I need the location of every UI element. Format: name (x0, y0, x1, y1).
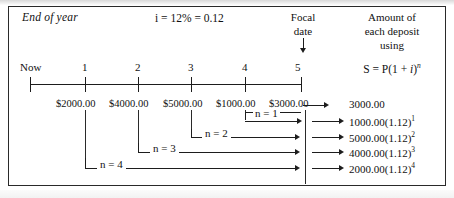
result-arrow-line-4 (312, 168, 340, 169)
timeline-tick-label-1: 1 (82, 62, 88, 73)
bracket-label-n1: n = 1 (253, 108, 280, 119)
page-edge-bottom (0, 190, 454, 198)
right-header-line1: Amount of (340, 12, 444, 23)
arrow-icon-n2 (295, 134, 300, 140)
arrow-icon-n3 (295, 149, 300, 155)
result-exponent-2: 2 (411, 130, 415, 139)
timeline-tick-1 (85, 77, 86, 92)
timeline-tick-now (30, 77, 31, 92)
timeline-tick-label-2: 2 (135, 62, 141, 73)
bracket-label-n4: n = 4 (97, 159, 126, 170)
result-factor-4: (1.12) (385, 163, 412, 175)
timeline-tick-4 (245, 77, 246, 92)
result-factor-2: (1.12) (385, 132, 412, 144)
diagram-canvas: End of year i = 12% = 0.12 Focal date Am… (0, 0, 454, 198)
result-base-4: 2000.00 (349, 163, 385, 175)
arrow-icon-result-2 (339, 134, 344, 140)
timeline-axis (30, 84, 302, 85)
transfer-line-row-0 (303, 105, 325, 106)
formula-variable-i: i (410, 63, 413, 75)
timeline-tick-label-4: 4 (242, 62, 248, 73)
timeline-origin-label: Now (20, 62, 41, 73)
end-of-year-label: End of year (22, 12, 78, 24)
arrow-icon-n4 (295, 165, 300, 171)
arrow-icon-result-4 (339, 165, 344, 171)
compound-interest-formula: S = P(1 + i)n (340, 62, 444, 75)
arrow-icon-result-3 (339, 149, 344, 155)
result-value-3: 4000.00(1.12)3 (349, 146, 415, 159)
focal-date-line1: Focal (279, 12, 327, 23)
deposit-amount-year-1: $2000.00 (56, 99, 95, 110)
result-value-1: 1000.00(1.12)1 (349, 115, 415, 128)
result-factor-3: (1.12) (385, 147, 412, 159)
timeline-tick-label-5: 5 (295, 62, 301, 73)
result-value-0: 3000.00 (349, 99, 385, 110)
arrow-icon-row-0 (324, 102, 329, 108)
timeline-tick-5 (301, 77, 302, 92)
right-header-line2: each deposit (340, 26, 444, 37)
timeline-tick-label-3: 3 (188, 62, 194, 73)
focal-date-line2: date (279, 26, 327, 37)
arrow-icon-result-1 (339, 118, 344, 124)
bracket-line-n1 (245, 121, 298, 122)
timeline-tick-2 (138, 77, 139, 92)
deposit-stem-3 (191, 110, 192, 129)
deposit-stem-1 (85, 110, 86, 158)
result-exponent-4: 4 (411, 161, 415, 170)
result-base-2: 5000.00 (349, 132, 385, 144)
bracket-label-n3: n = 3 (150, 143, 179, 154)
interest-rate-label: i = 12% = 0.12 (155, 13, 224, 25)
deposit-stem-2 (138, 110, 139, 143)
result-base-3: 4000.00 (349, 147, 385, 159)
bracket-label-n2: n = 2 (202, 128, 231, 139)
result-arrow-line-2 (312, 137, 340, 138)
bracket-stem-n1 (245, 112, 246, 120)
result-exponent-1: 1 (411, 114, 415, 123)
result-base-1: 1000.00 (349, 116, 385, 128)
timeline-tick-3 (191, 77, 192, 92)
result-value-2: 5000.00(1.12)2 (349, 131, 415, 144)
page-edge-top (0, 0, 454, 5)
result-value-4: 2000.00(1.12)4 (349, 162, 415, 175)
arrow-icon-n1 (297, 118, 302, 124)
formula-prefix: S = P(1 + (363, 63, 410, 75)
result-arrow-line-1 (312, 121, 340, 122)
deposit-amount-year-3: $5000.00 (163, 99, 202, 110)
result-arrow-line-3 (312, 152, 340, 153)
right-header-line3: using (340, 40, 444, 51)
result-exponent-3: 3 (411, 145, 415, 154)
result-base-0: 3000.00 (349, 98, 385, 110)
formula-exponent-n: n (417, 61, 421, 70)
deposit-amount-year-4: $1000.00 (216, 99, 255, 110)
deposit-amount-year-2: $4000.00 (109, 99, 148, 110)
result-factor-1: (1.12) (385, 116, 412, 128)
focal-date-divider (305, 110, 306, 184)
down-arrow-icon (300, 48, 306, 53)
